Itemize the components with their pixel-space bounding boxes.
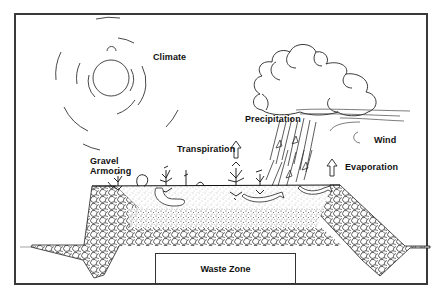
sun-icon xyxy=(56,17,178,150)
evaporation-arrow-icon xyxy=(327,159,337,176)
cloud-icon xyxy=(254,45,377,116)
climate-label: Climate xyxy=(153,52,186,62)
waste-zone-box: Waste Zone xyxy=(155,253,296,284)
gravel-label: Gravel xyxy=(90,156,119,166)
armoring-label: Armoring xyxy=(90,166,131,176)
evaporation-label: Evaporation xyxy=(345,162,398,172)
precipitation-label: Precipitation xyxy=(245,114,301,124)
sand-layer xyxy=(128,208,324,228)
right-rock-slope xyxy=(320,185,430,276)
rain-icon xyxy=(266,118,316,188)
transpiration-label: Transpiration xyxy=(177,144,235,154)
waste-zone-label: Waste Zone xyxy=(200,264,250,274)
wind-label: Wind xyxy=(374,135,396,145)
ground-surface xyxy=(92,185,340,186)
gravel-base-layer xyxy=(104,228,342,246)
